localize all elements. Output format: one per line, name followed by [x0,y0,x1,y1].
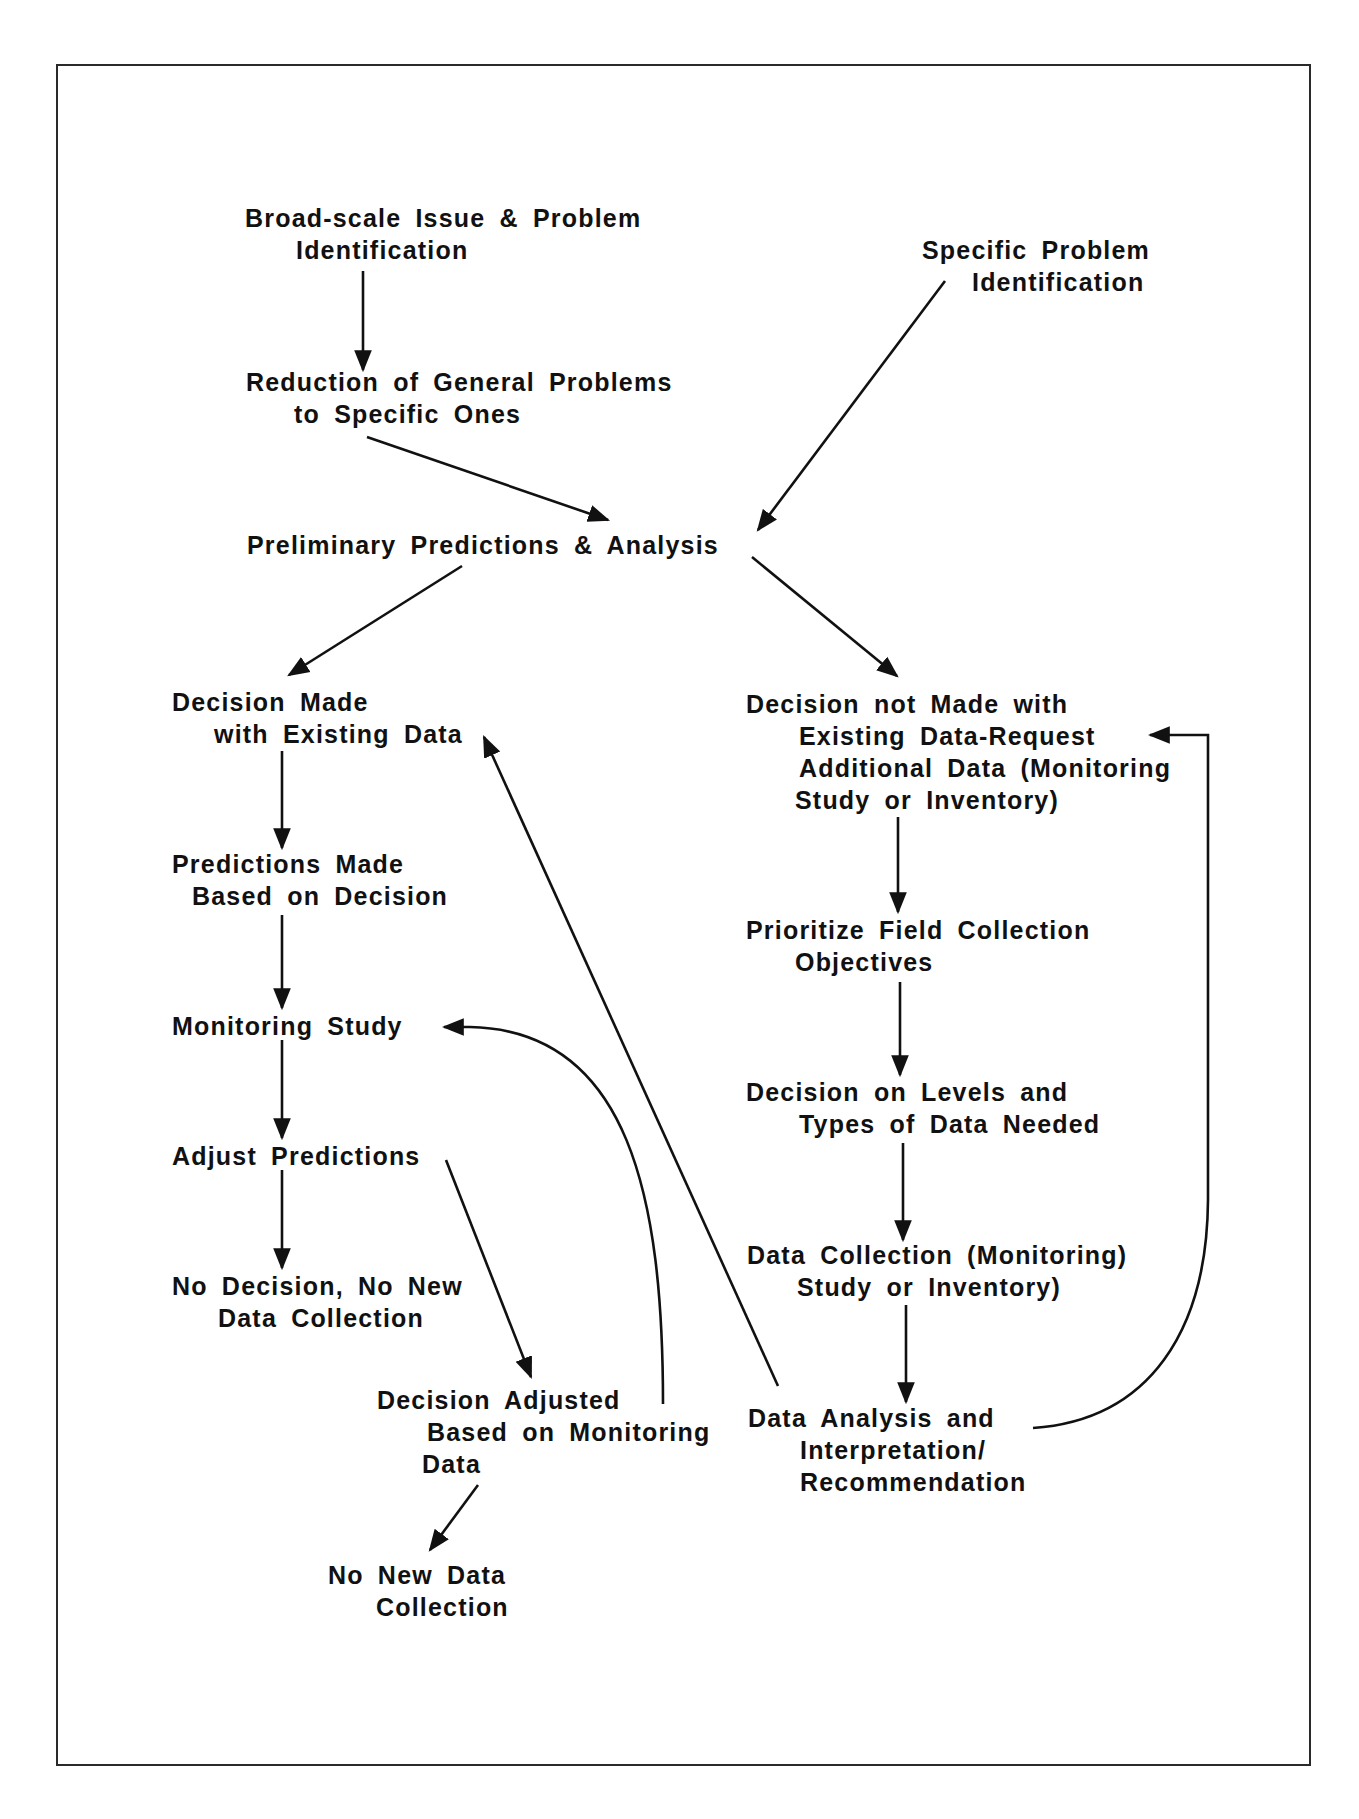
node-broad-scale-issue: Broad-scale Issue & Problem Identificati… [245,202,641,266]
node-monitoring-study: Monitoring Study [172,1010,403,1042]
node-decision-adjusted: Decision Adjusted Based on Monitoring Da… [377,1384,710,1480]
node-adjust-predictions: Adjust Predictions [172,1140,420,1172]
node-decision-levels-types: Decision on Levels and Types of Data Nee… [746,1076,1100,1140]
arrow-reduction-to-preliminary [367,437,608,520]
node-predictions-made: Predictions Made Based on Decision [172,848,448,912]
node-prioritize-field-collection: Prioritize Field Collection Objectives [746,914,1090,978]
arrow-decision-adjusted-to-no-new-data [430,1485,478,1550]
node-decision-made-existing-data: Decision Made with Existing Data [172,686,463,750]
node-no-new-data-collection: No New Data Collection [328,1559,509,1623]
node-specific-problem: Specific Problem Identification [922,234,1150,298]
node-data-analysis: Data Analysis and Interpretation/ Recomm… [748,1402,1027,1498]
node-reduction-of-problems: Reduction of General Problems to Specifi… [246,366,672,430]
arrow-preliminary-to-decision-made [289,566,462,675]
node-data-collection: Data Collection (Monitoring) Study or In… [747,1239,1127,1303]
node-preliminary-predictions: Preliminary Predictions & Analysis [247,529,719,561]
arrow-adjust-to-decision-adjusted [446,1160,531,1377]
node-decision-not-made: Decision not Made with Existing Data-Req… [746,688,1171,816]
node-no-decision-no-new-data: No Decision, No New Data Collection [172,1270,463,1334]
arrow-specific-to-preliminary [758,281,945,530]
arrow-preliminary-to-decision-not-made [752,557,897,676]
arrow-decision-adjusted-to-monitoring [444,1027,663,1404]
arrow-analysis-to-decision-made [484,737,778,1386]
